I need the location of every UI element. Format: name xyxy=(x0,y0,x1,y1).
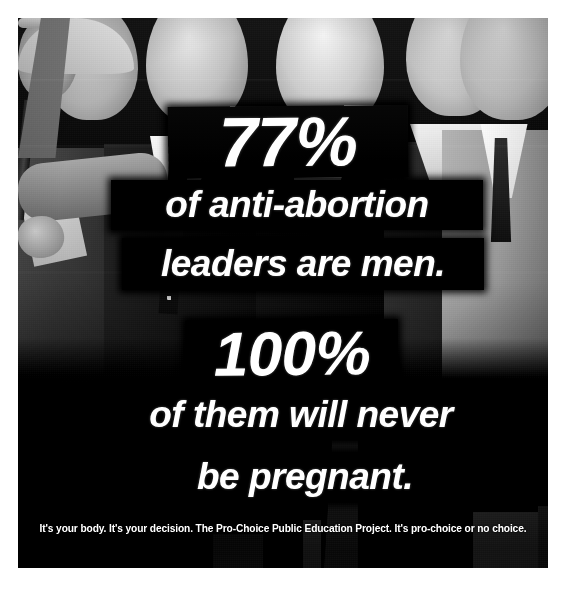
headline-line-of-anti-abortion: of anti-abortion xyxy=(111,180,483,230)
statistic-77-percent: 77% xyxy=(168,105,409,179)
figure5-lapel xyxy=(18,18,70,158)
headline-line-leaders-are-men: leaders are men. xyxy=(122,238,484,290)
statistic-100-percent: 100% xyxy=(186,319,399,387)
poster-photograph: 77% of anti-abortion leaders are men. 10… xyxy=(18,18,548,568)
poster-page: 77% of anti-abortion leaders are men. 10… xyxy=(0,0,566,590)
headline-line-be-pregnant: be pregnant. xyxy=(155,452,455,502)
headline-line-of-them-will-never: of them will never xyxy=(100,390,502,440)
tagline-text: It's your body. It's your decision. The … xyxy=(40,523,527,534)
figure5-hand xyxy=(18,212,67,261)
tagline-bar: It's your body. It's your decision. The … xyxy=(18,515,548,541)
